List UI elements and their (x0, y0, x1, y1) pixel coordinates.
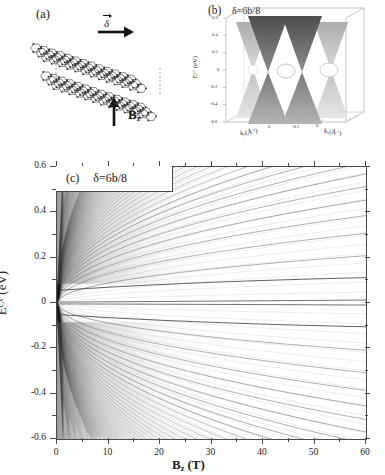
ytick-minor-4 (52, 370, 56, 371)
xtick-minor-top-4 (288, 163, 289, 166)
panel-b: (b) δ=6b/8 Ec,v (eV) (196, 0, 385, 150)
ytick-label-3: 0 (16, 296, 46, 306)
ytick-label-1: 0.4 (16, 205, 46, 215)
ytick-minor-right-1 (365, 234, 368, 235)
panel-c-tagbox: (c) δ=6b/8 (56, 166, 173, 192)
ytick-minor-right-3 (365, 325, 368, 326)
panel-b-ytick-2: 0.2 (212, 49, 218, 54)
ytick-minor-right-2 (365, 279, 368, 280)
xtick-minor-top-3 (236, 163, 237, 166)
xtick-major-4 (262, 438, 263, 444)
panel-b-ytick-6: -0.6 (210, 119, 217, 124)
xtick-label-1: 10 (96, 447, 120, 457)
ytick-label-6: -0.6 (16, 432, 46, 442)
ytick-major-5 (50, 393, 56, 394)
xtick-label-2: 20 (147, 447, 171, 457)
graphene-sheet-upper (31, 43, 147, 93)
xtick-major-top-5 (314, 161, 315, 166)
ytick-minor-1 (52, 234, 56, 235)
xtick-label-5: 50 (302, 447, 326, 457)
ytick-major-right-0 (365, 166, 370, 167)
ytick-major-3 (50, 302, 56, 303)
xtick-minor-top-5 (339, 163, 340, 166)
ytick-major-2 (50, 257, 56, 258)
ytick-minor-3 (52, 325, 56, 326)
panel-c-xlabel: Bz (T) (172, 457, 205, 473)
xtick-minor-top-2 (185, 163, 186, 166)
ytick-major-4 (50, 347, 56, 348)
xtick-minor-4 (288, 438, 289, 442)
panel-b-kxtick-0: -0.1 (292, 124, 299, 129)
panel-c-tag: (c) (66, 171, 79, 186)
ytick-label-2: 0.2 (16, 251, 46, 261)
ytick-major-right-4 (365, 347, 370, 348)
ytick-major-right-2 (365, 257, 370, 258)
panel-c: (c) δ=6b/8 Ec,v (eV) Bz (T) 0.60.40.20-0… (0, 150, 385, 475)
xtick-major-top-4 (262, 161, 263, 166)
ytick-minor-5 (52, 415, 56, 416)
xtick-major-6 (365, 438, 366, 444)
ytick-minor-right-0 (365, 189, 368, 190)
ytick-minor-2 (52, 279, 56, 280)
shift-arrow-icon (98, 27, 134, 38)
ytick-label-5: -0.4 (16, 387, 46, 397)
xtick-label-0: 0 (44, 447, 68, 457)
panel-c-ylabel: Ec,v (eV) (0, 271, 10, 315)
panel-b-ytick-0: 0.6 (212, 15, 218, 20)
bz-field-label: Bz (128, 108, 140, 123)
xtick-label-6: 60 (353, 447, 377, 457)
panel-b-ytick-4: -0.2 (210, 84, 217, 89)
panel-b-kxtick-1: 0 (316, 123, 318, 128)
panel-b-ytick-3: 0 (217, 67, 219, 72)
ytick-label-0: 0.6 (16, 160, 46, 170)
panel-a-graphic (0, 0, 196, 150)
xtick-minor-0 (82, 438, 83, 442)
ytick-label-4: -0.2 (16, 341, 46, 351)
xtick-minor-2 (185, 438, 186, 442)
landau-level-curves (57, 167, 366, 439)
panel-b-ytick-5: -0.4 (210, 101, 217, 106)
xtick-major-top-6 (365, 161, 366, 166)
xtick-major-2 (159, 438, 160, 444)
xtick-major-5 (314, 438, 315, 444)
panel-b-kytick-1: 0 (268, 124, 270, 129)
landau-fan-plot-area (56, 166, 367, 440)
panel-b-y-ticks (223, 18, 226, 122)
panel-b-3d-plot (196, 0, 385, 150)
ytick-minor-right-5 (365, 415, 368, 416)
panel-c-title: δ=6b/8 (93, 171, 127, 186)
ytick-major-right-3 (365, 302, 370, 303)
panel-a: (a) δ (0, 0, 196, 150)
xtick-label-4: 40 (250, 447, 274, 457)
xtick-minor-5 (339, 438, 340, 442)
ytick-minor-right-4 (365, 370, 368, 371)
ytick-major-right-1 (365, 211, 370, 212)
xtick-major-3 (211, 438, 212, 444)
xtick-minor-1 (133, 438, 134, 442)
panel-b-ytick-1: 0.4 (212, 32, 218, 37)
xtick-minor-3 (236, 438, 237, 442)
ytick-major-1 (50, 211, 56, 212)
xtick-major-0 (56, 438, 57, 444)
ytick-major-right-5 (365, 393, 370, 394)
dirac-point-gaps (248, 63, 338, 78)
xtick-major-top-3 (211, 161, 212, 166)
xtick-major-1 (108, 438, 109, 444)
xtick-label-3: 30 (199, 447, 223, 457)
figure-root: (a) δ (0, 0, 385, 475)
